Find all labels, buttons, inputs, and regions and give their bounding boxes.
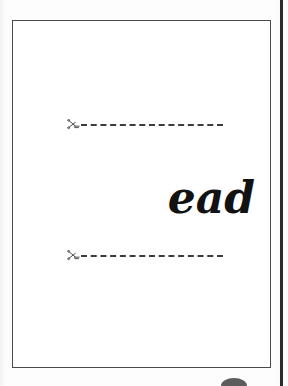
scan-edge-shadow xyxy=(0,0,6,386)
word-text: ead xyxy=(13,176,255,220)
cut-line-dashes xyxy=(81,124,223,126)
panel-divider xyxy=(280,0,283,386)
cut-line-top xyxy=(67,117,223,133)
scissors-icon xyxy=(67,250,80,263)
cut-line-dashes xyxy=(81,255,223,257)
worksheet-page: ead xyxy=(12,20,271,368)
scissors-icon xyxy=(67,119,80,132)
cut-line-bottom xyxy=(67,248,223,264)
